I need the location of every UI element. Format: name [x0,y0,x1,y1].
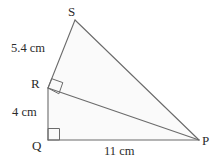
measurement-label-rq: 4 cm [12,106,37,119]
measurement-label-sr: 5.4 cm [11,42,45,55]
geometry-figure: S R Q P 5.4 cm 4 cm 11 cm [0,0,221,165]
measurement-label-qp: 11 cm [104,145,134,158]
shape-fill-SPQR [48,20,199,140]
vertex-label-q: Q [32,139,41,152]
vertex-label-p: P [202,134,209,147]
vertex-label-s: S [68,5,75,18]
vertex-label-r: R [31,77,40,90]
